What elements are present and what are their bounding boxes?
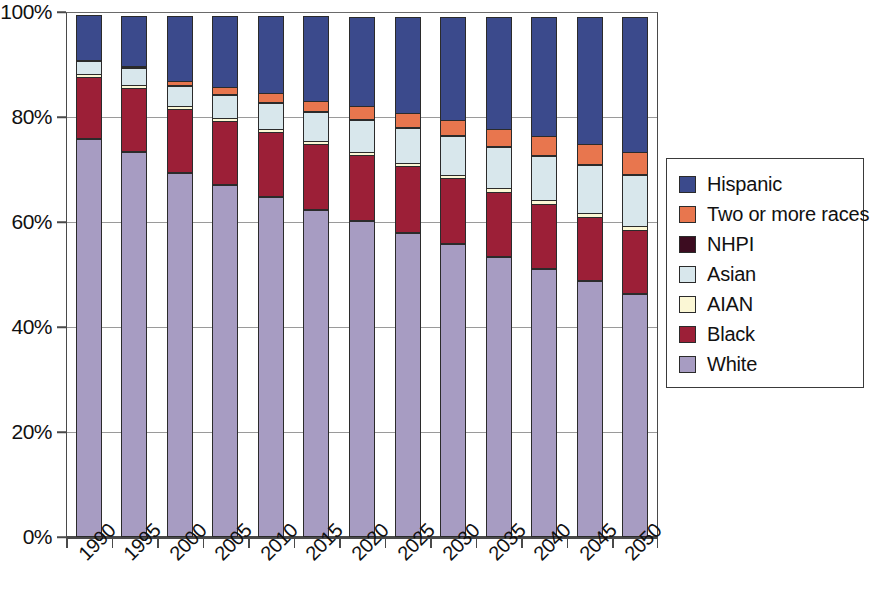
bar-segment-two-or-more-races [486, 129, 512, 147]
legend-swatch-icon [679, 326, 696, 343]
legend-item-label: Black [707, 323, 755, 346]
legend: HispanicTwo or more racesNHPIAsianAIANBl… [666, 158, 864, 388]
bar-segment-asian [167, 86, 193, 106]
y-axis-tick-label: 80% [11, 105, 52, 129]
legend-item-label: Two or more races [707, 203, 869, 226]
bar-segment-asian [76, 61, 102, 76]
y-axis-tick-label: 40% [11, 315, 52, 339]
bar-segment-two-or-more-races [622, 152, 648, 175]
bar-segment-hispanic [486, 17, 512, 130]
y-axis-tick-mark [57, 116, 66, 118]
bar-segment-white [531, 269, 557, 537]
legend-item-nhpi: NHPI [679, 229, 863, 259]
bar-segment-white [303, 210, 329, 537]
bar-segment-two-or-more-races [440, 120, 466, 136]
bar-2035 [486, 12, 512, 537]
y-axis-tick-mark [57, 326, 66, 328]
y-axis-tick-label: 60% [11, 210, 52, 234]
bar-1995 [121, 12, 147, 537]
legend-item-white: White [679, 349, 863, 379]
legend-item-label: Hispanic [707, 173, 782, 196]
bar-segment-hispanic [303, 16, 329, 102]
bar-segment-black [167, 109, 193, 173]
bar-segment-black [76, 77, 102, 139]
y-axis-tick-mark [57, 221, 66, 223]
bar-segment-black [486, 192, 512, 258]
bar-segment-two-or-more-races [395, 113, 421, 128]
legend-swatch-icon [679, 296, 696, 313]
bar-segment-asian [531, 156, 557, 202]
bar-segment-white [258, 197, 284, 537]
x-axis-tick-mark [66, 537, 68, 548]
bar-segment-hispanic [395, 17, 421, 115]
bar-segment-black [395, 166, 421, 232]
x-axis-labels: 1990199520002005201020152020202520302035… [0, 549, 872, 601]
bar-segment-black [258, 132, 284, 197]
bar-2000 [167, 12, 193, 537]
bar-segment-hispanic [212, 16, 238, 88]
bar-segment-asian [395, 128, 421, 164]
y-axis-tick-mark [57, 431, 66, 433]
bar-segment-hispanic [622, 17, 648, 154]
bar-2010 [258, 12, 284, 537]
legend-item-label: NHPI [707, 233, 754, 256]
legend-swatch-icon [679, 356, 696, 373]
legend-item-aian: AIAN [679, 289, 863, 319]
bar-segment-asian [258, 103, 284, 130]
bar-segment-white [76, 139, 102, 537]
legend-swatch-icon [679, 266, 696, 283]
bar-segment-black [440, 178, 466, 244]
bar-segment-asian [622, 175, 648, 227]
bar-segment-hispanic [440, 17, 466, 121]
bar-2040 [531, 12, 557, 537]
bar-2030 [440, 12, 466, 537]
bar-2025 [395, 12, 421, 537]
legend-item-label: AIAN [707, 293, 753, 316]
bar-segment-two-or-more-races [531, 136, 557, 155]
bar-segment-white [486, 257, 512, 537]
bar-segment-white [167, 173, 193, 537]
bar-segment-white [349, 221, 375, 537]
bar-segment-asian [349, 120, 375, 153]
bar-segment-black [303, 144, 329, 210]
legend-item-label: White [707, 353, 757, 376]
bar-segment-black [577, 217, 603, 282]
stacked-bar-chart: 0%20%40%60%80%100% 199019952000200520102… [0, 0, 872, 601]
bar-1990 [76, 12, 102, 537]
bar-segment-white [440, 244, 466, 537]
bar-segment-white [212, 185, 238, 537]
bars-layer [66, 12, 658, 537]
bar-2005 [212, 12, 238, 537]
legend-item-label: Asian [707, 263, 756, 286]
legend-item-asian: Asian [679, 259, 863, 289]
bar-segment-black [121, 88, 147, 152]
y-axis: 0%20%40%60%80%100% [0, 0, 66, 549]
bar-segment-white [121, 152, 147, 537]
y-axis-tick-label: 0% [23, 525, 52, 549]
bar-2050 [622, 12, 648, 537]
bar-segment-black [212, 121, 238, 186]
bar-segment-hispanic [531, 17, 557, 138]
legend-swatch-icon [679, 206, 696, 223]
y-axis-tick-label: 100% [0, 0, 52, 24]
y-axis-tick-mark [57, 536, 66, 538]
bar-segment-asian [212, 95, 238, 119]
bar-2020 [349, 12, 375, 537]
bar-segment-asian [303, 112, 329, 142]
legend-item-two-or-more-races: Two or more races [679, 199, 863, 229]
legend-swatch-icon [679, 176, 696, 193]
bar-segment-white [577, 281, 603, 537]
bar-segment-two-or-more-races [577, 144, 603, 165]
bar-segment-black [349, 155, 375, 221]
bar-segment-hispanic [349, 17, 375, 108]
bar-segment-asian [121, 68, 147, 86]
bar-segment-hispanic [167, 16, 193, 82]
bar-segment-white [622, 294, 648, 537]
bar-2015 [303, 12, 329, 537]
bar-segment-asian [486, 147, 512, 190]
y-axis-tick-label: 20% [11, 420, 52, 444]
bar-segment-hispanic [121, 16, 147, 67]
bar-segment-asian [577, 165, 603, 214]
bar-segment-asian [440, 136, 466, 175]
legend-item-hispanic: Hispanic [679, 169, 863, 199]
